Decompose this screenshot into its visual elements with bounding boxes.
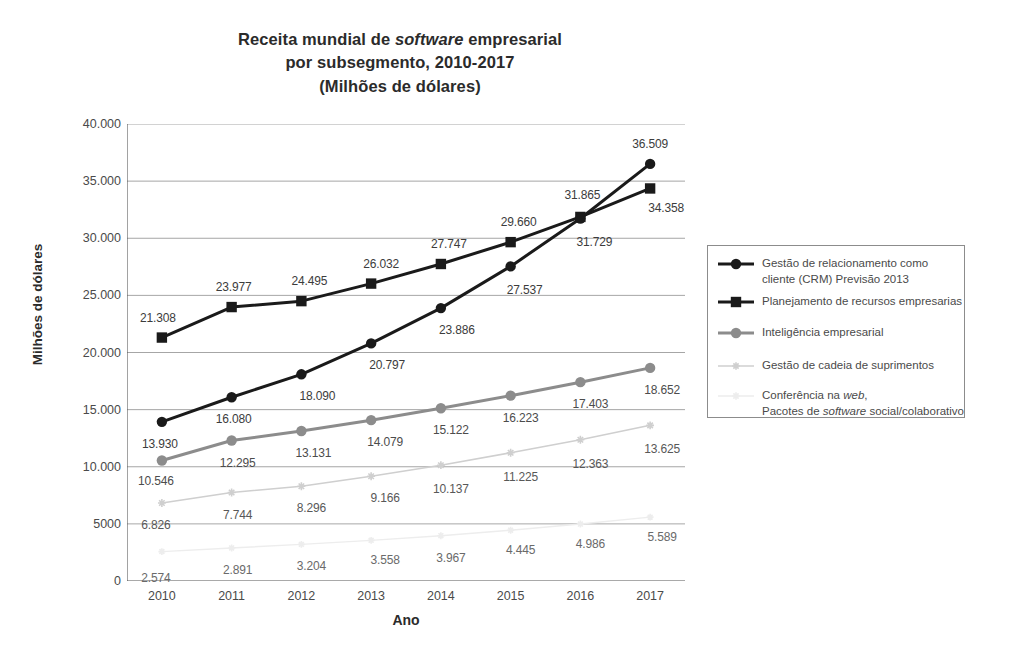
data-point-marker xyxy=(366,415,376,425)
data-point-marker xyxy=(437,532,444,539)
y-axis-tick-labels: 0500010.00015.00020.00025.00030.00035.00… xyxy=(53,124,121,581)
legend-label-web: Conferência na web,Pacotes de software s… xyxy=(760,388,964,419)
data-point-marker xyxy=(367,472,375,480)
data-point-marker xyxy=(505,261,515,271)
chart-title: Receita mundial de software empresarial … xyxy=(130,28,670,98)
data-point-marker xyxy=(298,541,305,548)
data-point-marker xyxy=(505,390,515,400)
legend-marker-circle-icon xyxy=(716,257,760,271)
chart-title-line-1: Receita mundial de software empresarial xyxy=(130,28,670,51)
legend-label-bi: Inteligência empresarial xyxy=(760,325,883,341)
data-point-marker xyxy=(366,338,376,348)
y-tick-label: 0 xyxy=(59,574,121,588)
x-tick-label: 2012 xyxy=(261,589,341,603)
series-web xyxy=(158,514,653,555)
data-point-marker xyxy=(436,403,446,413)
chart-canvas xyxy=(127,124,685,581)
data-point-marker xyxy=(226,435,236,445)
chart-figure: Receita mundial de software empresarial … xyxy=(0,0,1014,658)
series-line-erp xyxy=(162,188,650,337)
data-point-marker xyxy=(646,421,654,429)
data-point-marker xyxy=(228,545,235,552)
data-point-marker xyxy=(645,363,655,373)
series-scm xyxy=(158,421,654,506)
legend-label-line: cliente (CRM) Previsão 2013 xyxy=(762,272,928,288)
legend-label-erp: Planejamento de recursos empresarias xyxy=(760,294,962,310)
data-point-marker xyxy=(577,521,584,528)
legend-marker-star-icon xyxy=(716,359,760,373)
legend-marker-square-icon xyxy=(716,295,760,309)
x-tick-label: 2016 xyxy=(540,589,620,603)
data-point-marker xyxy=(575,213,585,223)
data-point-marker xyxy=(297,482,305,490)
y-tick-label: 5000 xyxy=(59,517,121,531)
chart-title-line-1-post: empresarial xyxy=(464,30,562,48)
legend-label-line: Gestão de relacionamento como xyxy=(762,256,928,272)
legend-label-crm: Gestão de relacionamento comocliente (CR… xyxy=(760,256,928,287)
y-tick-label: 10.000 xyxy=(59,460,121,474)
series-erp xyxy=(157,183,656,342)
x-tick-label: 2011 xyxy=(192,589,272,603)
x-axis-title: Ano xyxy=(127,612,685,628)
x-tick-label: 2015 xyxy=(471,589,551,603)
data-point-marker xyxy=(575,377,585,387)
data-point-marker xyxy=(576,436,584,444)
data-point-marker xyxy=(158,499,166,507)
data-point-marker xyxy=(647,514,654,521)
plot-area xyxy=(127,124,685,581)
data-point-marker xyxy=(226,302,236,312)
x-tick-label: 2017 xyxy=(610,589,690,603)
legend-item-web[interactable]: Conferência na web,Pacotes de software s… xyxy=(708,388,964,419)
data-point-marker xyxy=(437,461,445,469)
legend-label-italic: web xyxy=(843,389,864,401)
legend-label-line: Conferência na web, xyxy=(762,388,964,404)
data-point-marker xyxy=(296,369,306,379)
legend-label-italic: software xyxy=(823,405,866,417)
chart-title-line-1-pre: Receita mundial de xyxy=(238,30,395,48)
legend-label-line: Gestão de cadeia de suprimentos xyxy=(762,358,934,374)
y-tick-label: 20.000 xyxy=(59,346,121,360)
data-point-marker xyxy=(158,548,165,555)
data-point-marker xyxy=(436,259,446,269)
data-point-marker xyxy=(157,417,167,427)
chart-title-line-2: por subsegmento, 2010-2017 xyxy=(130,51,670,74)
y-axis-title: Milhões de dólares xyxy=(30,205,45,405)
y-tick-label: 35.000 xyxy=(59,174,121,188)
data-point-marker xyxy=(505,237,515,247)
legend-item-erp[interactable]: Planejamento de recursos empresarias xyxy=(708,294,964,310)
legend-item-scm[interactable]: Gestão de cadeia de suprimentos xyxy=(708,358,964,374)
legend-label-line: Pacotes de software social/colaborativo xyxy=(762,404,964,420)
data-point-marker xyxy=(645,159,655,169)
x-tick-label: 2010 xyxy=(122,589,202,603)
data-point-marker xyxy=(368,537,375,544)
x-tick-label: 2013 xyxy=(331,589,411,603)
data-point-marker xyxy=(157,455,167,465)
legend-label-line: Inteligência empresarial xyxy=(762,325,883,341)
legend-marker-circle-icon xyxy=(716,326,760,340)
y-tick-label: 30.000 xyxy=(59,231,121,245)
legend-item-crm[interactable]: Gestão de relacionamento comocliente (CR… xyxy=(708,256,964,287)
legend-marker-star-icon xyxy=(716,389,760,403)
legend-label-scm: Gestão de cadeia de suprimentos xyxy=(760,358,934,374)
data-point-marker xyxy=(296,426,306,436)
data-point-marker xyxy=(507,449,515,457)
y-tick-label: 25.000 xyxy=(59,288,121,302)
data-point-marker xyxy=(226,392,236,402)
x-tick-label: 2014 xyxy=(401,589,481,603)
y-tick-label: 15.000 xyxy=(59,403,121,417)
legend-label-line: Planejamento de recursos empresarias xyxy=(762,294,962,310)
x-axis-tick-labels: 20102011201220132014201520162017 xyxy=(127,581,685,607)
data-point-marker xyxy=(645,183,655,193)
data-point-marker xyxy=(366,278,376,288)
y-tick-label: 40.000 xyxy=(59,117,121,131)
legend-item-bi[interactable]: Inteligência empresarial xyxy=(708,325,964,341)
data-point-marker xyxy=(296,296,306,306)
series-line-web xyxy=(162,517,650,551)
data-point-marker xyxy=(228,489,236,497)
chart-title-line-3: (Milhões de dólares) xyxy=(130,75,670,98)
data-point-marker xyxy=(507,527,514,534)
series-bi xyxy=(157,363,656,466)
data-point-marker xyxy=(436,303,446,313)
data-point-marker xyxy=(157,332,167,342)
chart-title-line-1-italic: software xyxy=(395,30,464,48)
